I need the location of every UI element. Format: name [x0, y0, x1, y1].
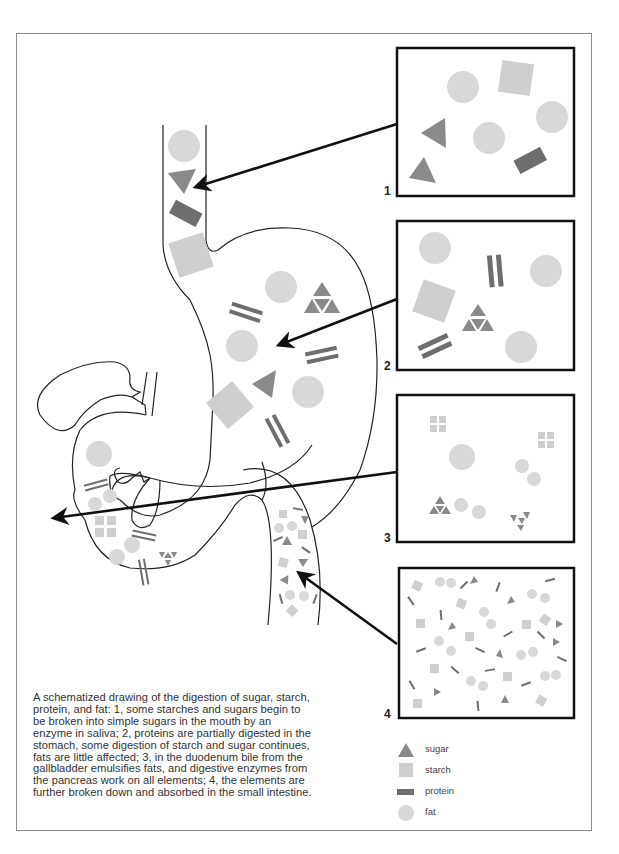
legend-item-protein: protein	[395, 783, 555, 804]
arrow-2	[279, 299, 397, 345]
starch-square-icon	[395, 762, 417, 780]
legend-label-sugar: sugar	[425, 743, 449, 754]
esophagus-right-wall	[206, 125, 377, 527]
legend-item-fat: fat	[395, 804, 555, 825]
arrow-4	[299, 573, 397, 644]
fat-circle-icon	[395, 804, 417, 822]
protein-rectangle-icon	[395, 783, 417, 801]
panel-number-4: 4	[384, 707, 391, 721]
legend-item-starch: starch	[395, 762, 555, 783]
legend-label-protein: protein	[425, 785, 454, 796]
bile-duct	[132, 397, 146, 415]
bile-duct	[152, 372, 157, 416]
anatomy-outline	[38, 125, 378, 625]
panel-number-1: 1	[384, 184, 391, 198]
pancreas	[132, 478, 160, 528]
panel-number-2: 2	[384, 359, 391, 373]
bile-duct	[142, 372, 147, 405]
panel-3	[397, 395, 574, 542]
esophagus-contents	[168, 130, 214, 278]
panel-2	[397, 221, 574, 370]
small-intestine-left	[262, 462, 266, 500]
panel-1	[397, 48, 574, 196]
legend-item-sugar: sugar	[395, 741, 555, 762]
panel-4	[399, 568, 574, 718]
legend-label-starch: starch	[425, 764, 451, 775]
figure-caption: A schematized drawing of the digestion o…	[33, 692, 313, 799]
stomach-contents	[206, 271, 340, 448]
panel-number-3: 3	[384, 531, 391, 545]
legend-label-fat: fat	[425, 806, 436, 817]
gallbladder	[38, 362, 141, 431]
arrows	[54, 124, 397, 644]
legend: sugar starch protein fat	[395, 741, 555, 825]
sugar-triangle-icon	[395, 741, 417, 759]
duodenum-inner	[112, 476, 150, 490]
arrow-1	[196, 124, 397, 187]
